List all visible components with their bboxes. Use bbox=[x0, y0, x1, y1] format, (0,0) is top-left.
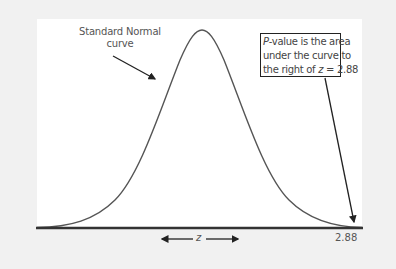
callout-line2: under the curve to bbox=[263, 49, 338, 63]
curve-label: Standard Normal curve bbox=[70, 26, 170, 50]
callout-line3: the right of z = 2.88 bbox=[263, 63, 338, 77]
curve-label-arrow bbox=[113, 56, 155, 79]
z-axis-label: z bbox=[196, 232, 201, 243]
curve-label-line2: curve bbox=[70, 38, 170, 50]
tick-label-2-88: 2.88 bbox=[335, 232, 357, 243]
callout-line1: P-value is the area bbox=[263, 35, 338, 49]
p-value-callout: P-value is the area under the curve to t… bbox=[260, 33, 341, 77]
callout-arrow bbox=[325, 78, 354, 222]
curve-label-line1: Standard Normal bbox=[70, 26, 170, 38]
